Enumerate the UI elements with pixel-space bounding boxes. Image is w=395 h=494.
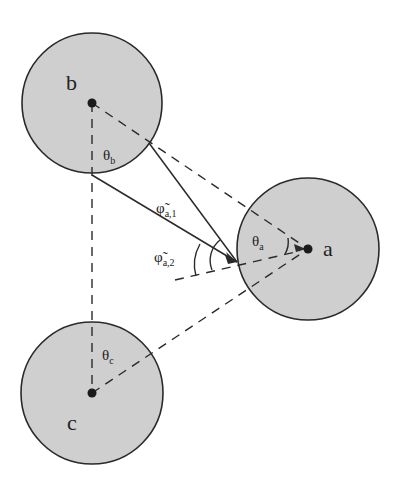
phi-a2-label: φ̃a,2 bbox=[154, 249, 175, 268]
node-a-center-dot bbox=[304, 245, 313, 254]
node-a-label: a bbox=[323, 236, 333, 261]
diagram-canvas: b a c θb θa θc φ̃a,1 φ̃a,2 bbox=[0, 0, 395, 494]
node-c-center-dot bbox=[88, 389, 97, 398]
arc-phi-a2 bbox=[194, 244, 200, 276]
node-b-label: b bbox=[66, 70, 77, 95]
node-b-center-dot bbox=[88, 99, 97, 108]
node-c-label: c bbox=[67, 410, 77, 435]
arc-phi-a1 bbox=[210, 240, 220, 270]
phi-a1-label: φ̃a,1 bbox=[156, 200, 177, 219]
